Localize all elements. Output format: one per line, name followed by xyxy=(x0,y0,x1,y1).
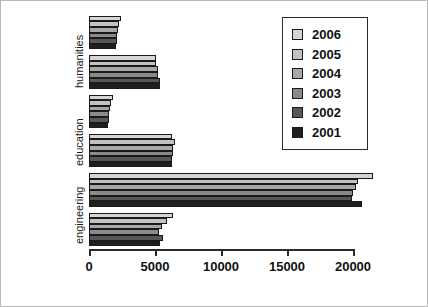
x-axis-tick-label: 10000 xyxy=(186,259,256,274)
legend-item: 2005 xyxy=(292,46,341,63)
bar xyxy=(89,44,116,50)
legend-label: 2006 xyxy=(312,28,341,41)
bar xyxy=(89,83,160,89)
legend-item: 2001 xyxy=(292,124,341,141)
legend-swatch-icon xyxy=(292,29,303,40)
x-axis-tick-label: 5000 xyxy=(120,259,190,274)
legend-swatch-icon xyxy=(292,68,303,79)
legend-label: 2004 xyxy=(312,67,341,80)
y-axis-category-label: engineering xyxy=(73,186,85,244)
legend-item: 2002 xyxy=(292,104,341,121)
legend-label: 2005 xyxy=(312,48,341,61)
legend-item: 2003 xyxy=(292,85,341,102)
bar xyxy=(89,241,160,247)
legend-swatch-icon xyxy=(292,49,303,60)
bar xyxy=(89,123,108,129)
legend-label: 2002 xyxy=(312,106,341,119)
legend-swatch-icon xyxy=(292,88,303,99)
y-axis-category-label: humanities xyxy=(73,34,85,87)
legend-swatch-icon xyxy=(292,127,303,138)
x-axis-tick xyxy=(353,249,355,256)
legend-item: 2004 xyxy=(292,65,341,82)
bar xyxy=(89,201,362,207)
chart-figure: 05000100001500020000 humanitieseducation… xyxy=(0,0,428,307)
legend-label: 2001 xyxy=(312,126,341,139)
legend-item: 2006 xyxy=(292,26,341,43)
y-axis-category-label: education xyxy=(73,118,85,166)
x-axis-tick xyxy=(155,249,157,256)
x-axis-tick-label: 15000 xyxy=(252,259,322,274)
x-axis-tick-label: 0 xyxy=(54,259,124,274)
x-axis-tick-label: 20000 xyxy=(318,259,388,274)
x-axis-tick xyxy=(221,249,223,256)
x-axis-tick xyxy=(89,249,91,256)
bar xyxy=(89,162,172,168)
legend-label: 2003 xyxy=(312,87,341,100)
legend-swatch-icon xyxy=(292,107,303,118)
x-axis-tick xyxy=(287,249,289,256)
legend: 200620052004200320022001 xyxy=(282,17,368,150)
